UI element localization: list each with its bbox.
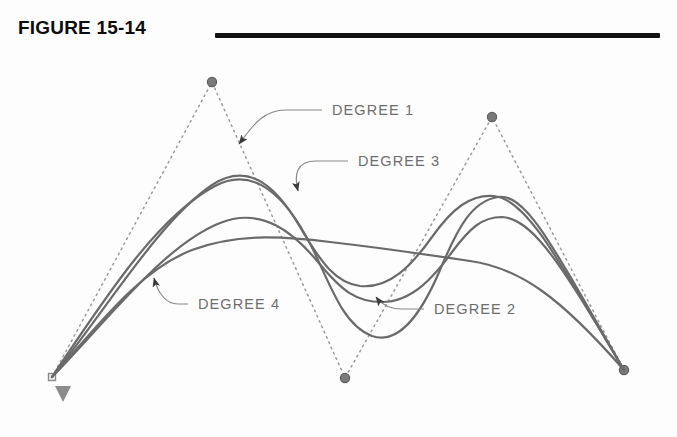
page-title: FIGURE 15-14: [18, 17, 146, 39]
control-point-p3[interactable]: [487, 112, 496, 121]
figure-header: FIGURE 15-14: [0, 0, 677, 60]
figure-drawing: DEGREE 1 DEGREE 3 DEGREE 2 DEGREE 4: [0, 55, 677, 437]
callout-degree-1-leader: [239, 110, 322, 144]
curve-degree-1: [52, 176, 624, 377]
callout-degree-1: DEGREE 1: [239, 102, 414, 144]
callout-degree-4-leader: [154, 278, 188, 304]
callout-degree-3-label: DEGREE 3: [358, 153, 440, 169]
control-point-p2[interactable]: [340, 373, 349, 382]
callout-degree-1-label: DEGREE 1: [332, 102, 414, 118]
callout-degree-4-label: DEGREE 4: [198, 296, 280, 312]
curve-degree-3: [52, 217, 624, 377]
callout-degree-3: DEGREE 3: [296, 153, 440, 191]
start-direction-triangle-icon: [55, 386, 71, 402]
bspline-degree-comparison-diagram: DEGREE 1 DEGREE 3 DEGREE 2 DEGREE 4: [0, 55, 677, 437]
curve-degree-4: [52, 237, 624, 377]
callout-degree-2-label: DEGREE 2: [434, 301, 516, 317]
callout-degree-3-leader: [296, 161, 348, 191]
control-point-p1[interactable]: [207, 77, 216, 86]
title-rule-divider: [215, 33, 660, 38]
callout-degree-4: DEGREE 4: [154, 278, 280, 312]
figure-page: FIGURE 15-14: [0, 0, 677, 437]
